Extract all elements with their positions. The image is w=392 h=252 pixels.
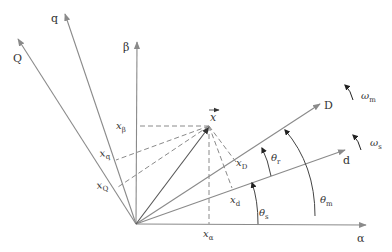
label-Q: Q (13, 52, 22, 65)
proj-q (116, 126, 209, 160)
Q-axis (18, 39, 136, 224)
label-x-Q: xQ (96, 178, 109, 193)
label-x-vector: x (210, 111, 217, 124)
label-theta-r: θr (271, 152, 281, 166)
label-d: d (343, 154, 350, 167)
D-axis (136, 104, 320, 224)
beta-axis (136, 42, 137, 224)
proj-D (209, 126, 236, 162)
theta-s-arc (252, 183, 258, 224)
vector-label: x (209, 110, 219, 124)
proj-d (209, 126, 232, 188)
alpha-axis (136, 224, 366, 225)
label-theta-m: θm (320, 194, 333, 208)
label-beta: β (123, 41, 129, 54)
label-alpha: α (357, 232, 365, 245)
space-vector-x (136, 127, 209, 224)
angle-labels: θs θr θm (259, 152, 333, 221)
proj-Q (118, 126, 209, 187)
omega-m-arrow-icon (345, 85, 353, 100)
label-x-q: xq (99, 147, 111, 162)
label-x-d: xd (230, 194, 241, 208)
axis-labels: α β d q D Q (13, 12, 365, 245)
omega-s-arrow-icon (353, 135, 361, 150)
label-omega-m: ωm (361, 90, 376, 104)
label-x-alpha: xα (203, 228, 214, 242)
diagram-svg: α β d q D Q x xβ xq xQ xD xd xα θs θr θm… (0, 0, 392, 252)
rotation-labels: ωm ωs (361, 90, 382, 151)
rotation-arrows (345, 85, 361, 150)
label-q: q (51, 12, 58, 25)
reference-frame-diagram: α β d q D Q x xβ xq xQ xD xd xα θs θr θm… (0, 0, 392, 252)
label-theta-s: θs (259, 207, 269, 221)
theta-m-arc (285, 130, 315, 216)
theta-r-arc (262, 148, 271, 176)
label-D: D (324, 99, 333, 112)
label-omega-s: ωs (370, 137, 382, 151)
label-x-beta: xβ (116, 120, 126, 134)
label-x-D: xD (236, 157, 248, 171)
